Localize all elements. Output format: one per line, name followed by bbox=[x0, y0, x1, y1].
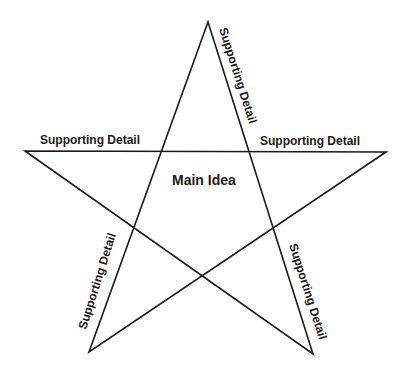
star-diagram: Supporting Detail Supporting Detail Supp… bbox=[0, 0, 406, 379]
label-main-idea: Main Idea bbox=[172, 172, 236, 188]
label-bottom-left: Supporting Detail bbox=[76, 231, 119, 331]
label-right-arm: Supporting Detail bbox=[260, 134, 360, 148]
label-top-right: Supporting Detail bbox=[216, 26, 260, 126]
star-outline bbox=[25, 22, 386, 354]
label-left-arm: Supporting Detail bbox=[40, 133, 140, 147]
